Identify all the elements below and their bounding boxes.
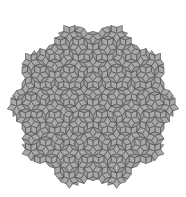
penrose-tiling-figure xyxy=(0,0,186,197)
rhombus-tiles xyxy=(7,26,178,189)
